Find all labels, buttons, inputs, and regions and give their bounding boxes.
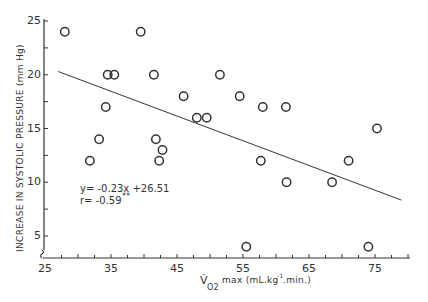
data-point [193,114,201,122]
y-tick-label: 5 [34,229,41,242]
x-tick-label: 45 [170,262,184,275]
y-tick-label: 20 [27,68,41,81]
fit-line [58,72,401,201]
x-axis-units: max (mL.kg [222,275,279,285]
plot-area: 510152025253545556575 INCREASE IN SYSTOL… [0,0,428,302]
data-point [216,71,224,79]
data-point [236,92,244,100]
data-point [282,103,290,111]
data-point [328,178,336,186]
data-point [203,114,211,122]
x-axis-subscript: O2 [207,283,219,292]
data-point [179,92,187,100]
x-tick-label: 65 [302,262,316,275]
regression-annotation: y= -0.23x +26.51 r= -0.59 ** [80,183,169,206]
y-tick-label: 10 [27,175,41,188]
x-tick-label: 55 [236,262,250,275]
x-tick-label: 35 [104,262,118,275]
correlation-coefficient: r= -0.59 [80,195,122,206]
data-point [86,157,94,165]
data-point [61,28,69,36]
x-axis-title: V̇ O2 max (mL.kg -1 .min.) [200,272,311,292]
data-point [259,103,267,111]
significance-marker: ** [122,192,130,201]
data-point [95,135,103,143]
data-point [344,157,352,165]
data-point [150,71,158,79]
x-tick-label: 75 [368,262,382,275]
data-point [242,243,250,251]
axis-ticks: 510152025253545556575 [27,14,408,275]
data-point [102,103,110,111]
scatter-chart: 510152025253545556575 INCREASE IN SYSTOL… [0,0,428,302]
data-point [158,146,166,154]
axes [41,19,411,258]
regression-line [58,72,401,201]
data-points [61,28,382,251]
y-tick-label: 15 [27,122,41,135]
x-axis-units-end: .min.) [283,275,311,285]
y-axis-title: INCREASE IN SYSTOLIC PRESSURE (mm Hg) [15,44,25,252]
data-point [257,157,265,165]
x-tick-label: 25 [38,262,52,275]
data-point [364,243,372,251]
data-point [282,178,290,186]
data-point [152,135,160,143]
axis-break-mark [41,250,44,258]
data-point [155,157,163,165]
y-tick-label: 25 [27,14,41,27]
data-point [137,28,145,36]
data-point [373,124,381,132]
